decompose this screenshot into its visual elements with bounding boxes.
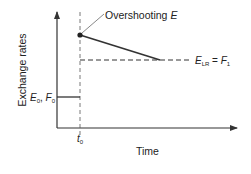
long-run-label: ELR = F1 <box>195 55 231 67</box>
annotation-leader <box>82 14 104 33</box>
y-axis-label: Exchange rates <box>16 34 28 107</box>
x-axis-label: Time <box>136 145 159 157</box>
overshoot-point <box>77 32 82 37</box>
overshooting-diagram: Overshooting E ELR = F1 E0, F0 t0 Time E… <box>0 0 251 174</box>
initial-label: E0, F0 <box>30 92 56 104</box>
adjustment-path <box>80 35 160 60</box>
overshooting-label: Overshooting E <box>105 9 178 21</box>
